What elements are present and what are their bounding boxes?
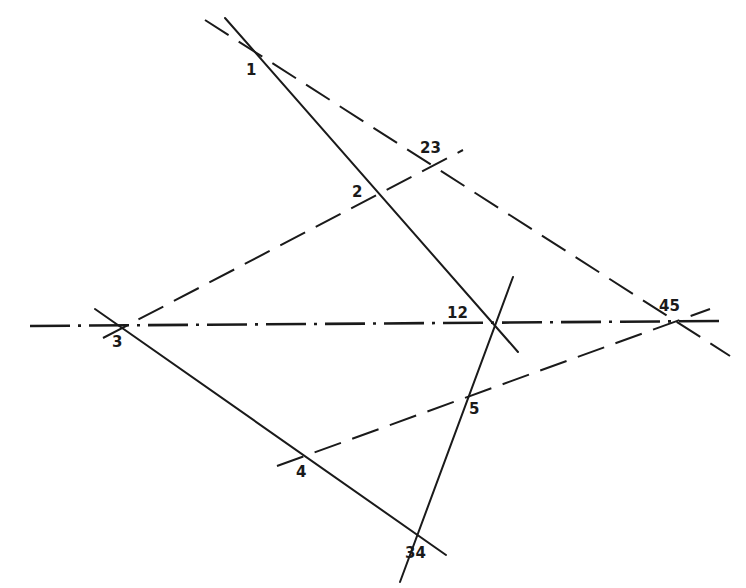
point-label-45: 45 — [659, 297, 680, 315]
axis-3-12-45 — [30, 321, 722, 326]
line-3-2-23 — [103, 150, 463, 338]
line-1-12 — [225, 18, 518, 352]
point-label-3: 3 — [112, 333, 122, 351]
point-label-1: 1 — [246, 61, 256, 79]
diagram-lines — [30, 18, 730, 582]
point-label-4: 4 — [296, 463, 306, 481]
point-label-2: 2 — [352, 183, 362, 201]
line-3-4-34 — [95, 309, 446, 555]
line-4-5-45 — [277, 309, 710, 466]
diagram-labels: 1232312455434 — [112, 61, 680, 562]
point-label-12: 12 — [447, 304, 468, 322]
point-label-34: 34 — [405, 544, 426, 562]
geometry-diagram: 1232312455434 — [0, 0, 746, 588]
point-label-5: 5 — [469, 400, 479, 418]
point-label-23: 23 — [420, 139, 441, 157]
